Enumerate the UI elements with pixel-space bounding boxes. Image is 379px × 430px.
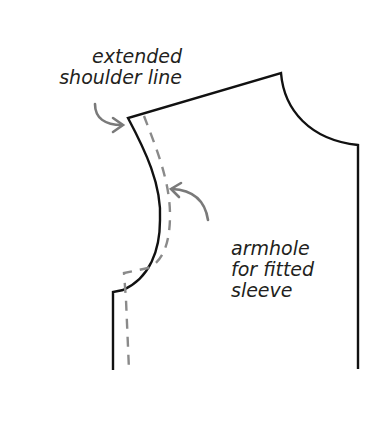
armhole-label-line1: armhole [231,238,314,259]
shoulder-label: extended shoulder line [59,46,182,88]
bodice-diagram [0,0,379,430]
fitted-armhole-dashed-line [124,116,170,370]
shoulder-label-line2: shoulder line [59,67,182,88]
armhole-arrow-icon [171,183,208,220]
armhole-label: armhole for fitted sleeve [231,238,314,301]
shoulder-arrow-icon [95,104,123,132]
armhole-label-line2: for fitted [231,259,314,280]
shoulder-label-line1: extended [59,46,182,67]
pattern-outline [113,73,358,370]
armhole-label-line3: sleeve [231,280,314,301]
